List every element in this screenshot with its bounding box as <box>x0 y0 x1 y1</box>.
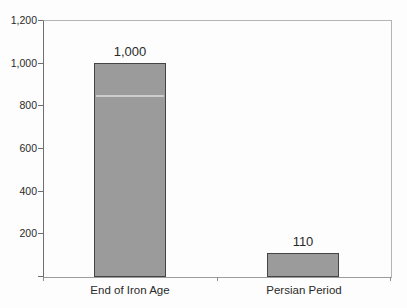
bar-end-of-iron-age <box>94 63 166 277</box>
bar-value-label: 1,000 <box>80 44 180 59</box>
y-tick-mark <box>38 105 43 106</box>
y-tick-label: 600 <box>0 142 37 154</box>
y-tick-mark <box>38 63 43 64</box>
y-tick-mark <box>38 20 43 21</box>
y-tick-mark <box>38 148 43 149</box>
y-tick-label: 200 <box>0 227 37 239</box>
bar-chart: 1,2001,0008006004002001,000End of Iron A… <box>0 0 407 308</box>
x-tick-mark <box>43 277 44 281</box>
y-tick-label: 1,000 <box>0 57 37 69</box>
bar-value-label: 110 <box>253 234 353 249</box>
y-tick-label: 400 <box>0 185 37 197</box>
bar-highlight-line <box>96 95 164 97</box>
y-tick-mark <box>38 191 43 192</box>
category-label-2: Persian Period <box>217 283 391 297</box>
x-tick-mark <box>217 277 218 281</box>
y-tick-mark <box>38 233 43 234</box>
x-tick-mark <box>390 277 391 281</box>
bar-persian-period <box>267 253 339 277</box>
y-tick-label: 800 <box>0 99 37 111</box>
y-tick-label: 1,200 <box>0 14 37 26</box>
category-label-1: End of Iron Age <box>43 283 217 297</box>
